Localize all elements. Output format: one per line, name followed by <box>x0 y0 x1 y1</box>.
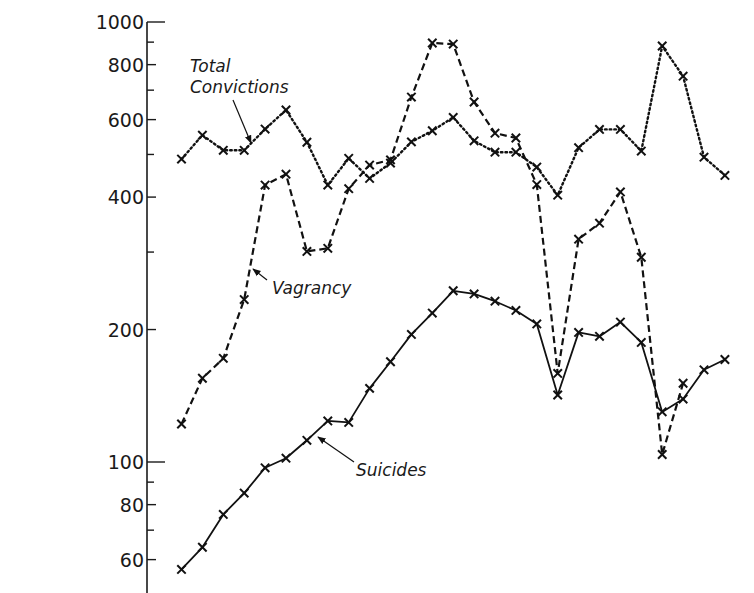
x-marker-icon <box>533 163 541 171</box>
x-marker-icon <box>282 106 290 114</box>
x-marker-icon <box>470 137 478 145</box>
y-tick-label: 100 <box>108 451 144 473</box>
series-annotations: TotalConvictionsVagrancySuicides <box>190 56 427 480</box>
x-marker-icon <box>407 138 415 146</box>
x-marker-icon <box>721 355 729 363</box>
chart: 10008006004002001008060 TotalConvictions… <box>0 0 754 593</box>
y-tick-label: 60 <box>120 549 144 571</box>
x-marker-icon <box>365 384 373 392</box>
label-suicides: Suicides <box>356 460 427 480</box>
series-lines <box>182 43 725 569</box>
x-marker-icon <box>512 306 520 314</box>
series-line-suicides <box>182 291 725 570</box>
x-marker-icon <box>595 219 603 227</box>
x-marker-icon <box>365 174 373 182</box>
x-marker-icon <box>345 154 353 162</box>
x-marker-icon <box>261 464 269 472</box>
label-total-convictions: Total <box>190 56 231 76</box>
x-marker-icon <box>721 171 729 179</box>
x-marker-icon <box>365 161 373 169</box>
x-marker-icon <box>616 188 624 196</box>
x-marker-icon <box>616 318 624 326</box>
x-marker-icon <box>177 420 185 428</box>
x-marker-icon <box>428 127 436 135</box>
x-marker-icon <box>324 181 332 189</box>
x-marker-icon <box>303 436 311 444</box>
y-tick-label: 600 <box>108 109 144 131</box>
series-line-total-convictions <box>182 46 725 195</box>
x-marker-icon <box>491 129 499 137</box>
x-marker-icon <box>261 125 269 133</box>
x-marker-icon <box>282 170 290 178</box>
x-marker-icon <box>449 113 457 121</box>
y-tick-label: 80 <box>120 494 144 516</box>
y-tick-label: 1000 <box>96 11 144 33</box>
arrow-icon <box>253 269 267 280</box>
arrow-icon <box>233 100 251 143</box>
x-marker-icon <box>700 366 708 374</box>
x-marker-icon <box>303 138 311 146</box>
x-marker-icon <box>240 489 248 497</box>
x-marker-icon <box>198 374 206 382</box>
x-marker-icon <box>407 330 415 338</box>
y-tick-label: 800 <box>108 54 144 76</box>
y-axis: 10008006004002001008060 <box>96 11 165 593</box>
x-marker-icon <box>700 153 708 161</box>
x-marker-icon <box>679 395 687 403</box>
arrow-icon <box>318 437 354 462</box>
x-marker-icon <box>386 358 394 366</box>
x-marker-icon <box>177 155 185 163</box>
x-marker-icon <box>616 125 624 133</box>
x-marker-icon <box>282 454 290 462</box>
y-tick-label: 400 <box>108 186 144 208</box>
label-total-convictions: Convictions <box>190 77 289 97</box>
x-marker-icon <box>512 148 520 156</box>
x-marker-icon <box>470 98 478 106</box>
label-vagrancy: Vagrancy <box>272 278 352 298</box>
series-line-vagrancy <box>182 43 684 455</box>
x-marker-icon <box>679 72 687 80</box>
x-marker-icon <box>198 543 206 551</box>
x-marker-icon <box>198 131 206 139</box>
x-marker-icon <box>219 510 227 518</box>
x-marker-icon <box>491 297 499 305</box>
y-tick-label: 200 <box>108 319 144 341</box>
x-marker-icon <box>177 565 185 573</box>
x-marker-icon <box>428 309 436 317</box>
